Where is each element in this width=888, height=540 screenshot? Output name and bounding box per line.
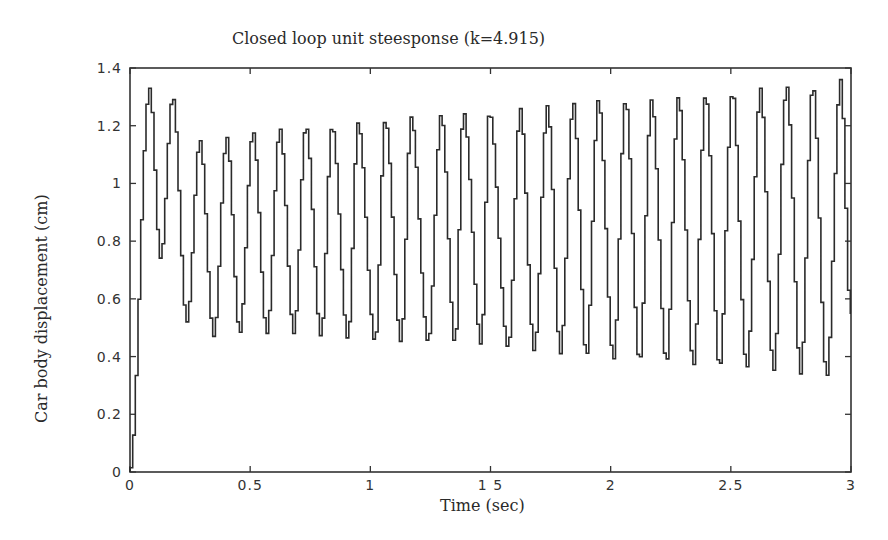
x-tick-label: 0 [125,477,135,493]
y-tick-label: 1.4 [97,60,122,76]
chart-title: Closed loop unit steesponse (k=4.915) [232,29,545,48]
y-tick-label: 1 [112,175,122,191]
y-tick-label: 1.2 [97,118,122,134]
y-tick-label: 0.4 [97,349,122,365]
y-tick-label: 0.8 [97,233,122,249]
axes-box [130,68,851,472]
y-tick-label: 0.6 [97,291,122,307]
x-tick-label: 1 [365,477,375,493]
x-tick-label: 3 [846,477,856,493]
y-axis-label: Car body displacement (cm) [32,194,51,423]
y-tick-label: 0 [112,464,122,480]
response-trace [130,80,851,472]
plot-area: 00.511 522.53 00.20.40.60.811.21.4 [97,60,856,493]
x-tick-label: 0.5 [238,477,263,493]
x-axis-label: Time (sec) [440,496,525,515]
x-axis-ticks: 00.511 522.53 [125,68,856,493]
step-response-chart: Closed loop unit steesponse (k=4.915) 00… [0,0,888,540]
x-tick-label: 2 [606,477,616,493]
x-tick-label: 2.5 [718,477,743,493]
y-tick-label: 0.2 [97,406,122,422]
x-tick-label: 1 5 [478,477,503,493]
